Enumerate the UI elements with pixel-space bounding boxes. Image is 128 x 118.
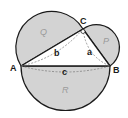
region-label-q: Q [40,27,47,37]
side-label-b: b [54,48,60,58]
right-angle-mark [81,30,85,34]
vertex-label-b: B [113,65,120,75]
vertex-label-c: C [80,16,87,26]
vertex-label-a: A [10,63,17,73]
side-label-c: c [62,67,67,77]
region-label-r: R [62,85,69,95]
region-label-p: P [103,36,109,46]
pythagorean-semicircles-diagram: A B C b a c Q P R [0,0,128,118]
